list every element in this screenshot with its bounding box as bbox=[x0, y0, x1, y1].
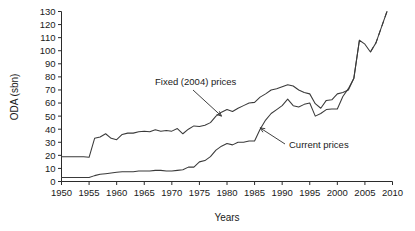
x-tick-label: 1990 bbox=[272, 187, 293, 198]
x-tick-label: 2010 bbox=[382, 187, 403, 198]
annotation-label-fixed-prices: Fixed (2004) prices bbox=[155, 76, 237, 87]
y-tick-label: 30 bbox=[45, 137, 56, 148]
y-axis-title: ODA (sbn) bbox=[9, 74, 20, 121]
x-tick-label: 1955 bbox=[79, 187, 100, 198]
y-tick-label: 0 bbox=[50, 176, 55, 187]
x-tick-label: 1960 bbox=[106, 187, 127, 198]
annotation-arrow-current-prices bbox=[260, 128, 285, 144]
x-tick-label: 1970 bbox=[161, 187, 182, 198]
x-axis-tick-labels: 1950195519601965197019751980198519901995… bbox=[51, 187, 403, 198]
line-chart: 0102030405060708090100110120130 19501955… bbox=[0, 0, 415, 231]
annotation-current-prices: Current prices bbox=[260, 128, 349, 150]
y-tick-label: 50 bbox=[45, 111, 56, 122]
annotation-label-current-prices: Current prices bbox=[289, 139, 349, 150]
chart-container: 0102030405060708090100110120130 19501955… bbox=[0, 0, 415, 231]
x-tick-label: 1985 bbox=[244, 187, 265, 198]
annotation-arrow-fixed-prices bbox=[193, 90, 221, 116]
y-tick-label: 90 bbox=[45, 58, 56, 69]
x-axis-title: Years bbox=[214, 212, 239, 223]
x-tick-label: 1975 bbox=[189, 187, 210, 198]
y-tick-label: 120 bbox=[40, 19, 56, 30]
x-tick-label: 1980 bbox=[216, 187, 237, 198]
x-tick-label: 2005 bbox=[354, 187, 375, 198]
x-tick-label: 2000 bbox=[327, 187, 348, 198]
y-tick-label: 130 bbox=[40, 6, 56, 17]
y-tick-label: 20 bbox=[45, 150, 56, 161]
y-tick-label: 70 bbox=[45, 84, 56, 95]
annotation-fixed-prices: Fixed (2004) prices bbox=[155, 76, 237, 116]
y-tick-label: 40 bbox=[45, 124, 56, 135]
y-tick-label: 100 bbox=[40, 45, 56, 56]
y-tick-label: 110 bbox=[40, 32, 55, 43]
x-tick-label: 1995 bbox=[299, 187, 320, 198]
y-tick-label: 10 bbox=[45, 163, 56, 174]
y-tick-label: 60 bbox=[45, 97, 56, 108]
x-tick-label: 1965 bbox=[134, 187, 155, 198]
y-axis-tick-labels: 0102030405060708090100110120130 bbox=[40, 6, 56, 187]
x-tick-label: 1950 bbox=[51, 187, 72, 198]
series-line-current-prices bbox=[62, 40, 360, 177]
y-tick-label: 80 bbox=[45, 71, 56, 82]
